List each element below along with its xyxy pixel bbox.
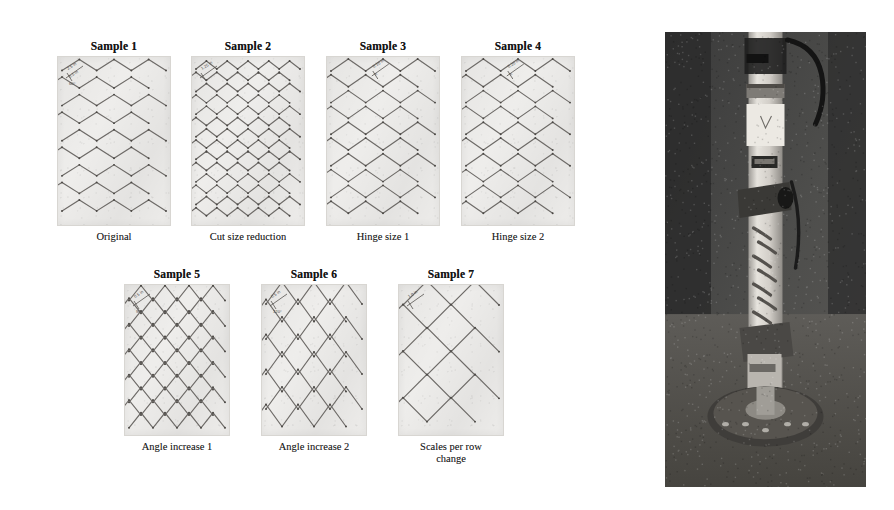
sample-cell-4: Sample 40.20 inhHinge size 2: [448, 40, 588, 243]
sample-title: Sample 4: [448, 40, 588, 52]
cut-pattern-graphic: 1.0 in: [399, 285, 503, 435]
flange-bolt-hole: [802, 422, 809, 426]
frame-column-right: [828, 32, 866, 314]
sample-title: Sample 2: [178, 40, 318, 52]
sample-caption: Original: [44, 231, 184, 243]
sample-cell-7: Sample 71.0 inScales per row change: [385, 268, 517, 465]
sample-panel-wrapper: 1.25 in: [178, 56, 318, 226]
sample-caption: Scales per row change: [385, 441, 517, 465]
sample-panel-wrapper: 1.0 in: [385, 284, 517, 436]
sample-cell-3: Sample 30.10 inhHinge size 1: [313, 40, 453, 243]
sample-pattern-panel: 1.0 in: [398, 284, 504, 436]
sample-caption: Hinge size 2: [448, 231, 588, 243]
cut-pattern-graphic: 1.25 in: [192, 57, 304, 225]
mid-clamp-knob: [778, 187, 794, 209]
sample-panel-wrapper: 0.5 in90°: [111, 284, 243, 436]
sample-title: Sample 3: [313, 40, 453, 52]
sample-title: Sample 1: [44, 40, 184, 52]
apparatus-photo: [665, 32, 866, 487]
sample-title: Sample 5: [111, 268, 243, 280]
sample-title: Sample 6: [248, 268, 380, 280]
sample-pattern-panel: 0.10 inh: [326, 56, 440, 226]
sample-pattern-panel: 0.20 inh: [461, 56, 575, 226]
sample-pattern-panel: 1.25 in: [191, 56, 305, 226]
sample-caption: Angle increase 1: [111, 441, 243, 453]
sample-cell-1: Sample 12.5 in0.5 in60°Original: [44, 40, 184, 243]
svg-text:0.5 in: 0.5 in: [270, 289, 282, 299]
upper-grip-slot: [747, 54, 769, 63]
sensor-block: [747, 104, 785, 146]
sample-cell-5: Sample 50.5 in90°Angle increase 1: [111, 268, 243, 453]
sample-caption: Cut size reduction: [178, 231, 318, 243]
lower-adapter-band: [750, 364, 776, 372]
flange-bolt-hole: [722, 422, 729, 426]
cut-pattern-graphic: 0.5 in120°: [262, 285, 366, 435]
sample-pattern-panel: 2.5 in0.5 in60°: [57, 56, 171, 226]
sample-pattern-panel: 0.5 in120°: [261, 284, 367, 436]
coupling-collar-shadow: [747, 84, 785, 88]
sample-panel-wrapper: 2.5 in0.5 in60°: [44, 56, 184, 226]
svg-text:90°: 90°: [136, 309, 143, 314]
figure-root: Sample 12.5 in0.5 in60°OriginalSample 21…: [0, 0, 894, 510]
cut-pattern-graphic: 0.20 inh: [462, 57, 574, 225]
svg-text:0.5 in: 0.5 in: [133, 289, 145, 299]
flange-bolt-hole: [742, 422, 749, 426]
sample-panel-wrapper: 0.5 in120°: [248, 284, 380, 436]
flange-bolt-hole: [762, 428, 769, 432]
sample-caption: Hinge size 1: [313, 231, 453, 243]
cut-pattern-graphic: 0.10 inh: [327, 57, 439, 225]
flange-shaft: [757, 387, 775, 415]
flange-bolt-hole: [784, 422, 791, 426]
cut-pattern-graphic: 0.5 in90°: [125, 285, 229, 435]
svg-text:60°: 60°: [69, 81, 76, 86]
sample-title: Sample 7: [385, 268, 517, 280]
sample-cell-6: Sample 60.5 in120°Angle increase 2: [248, 268, 380, 453]
sample-caption: Angle increase 2: [248, 441, 380, 453]
sample-pattern-panel: 0.5 in90°: [124, 284, 230, 436]
svg-text:120°: 120°: [273, 309, 282, 314]
sample-cell-2: Sample 21.25 inCut size reduction: [178, 40, 318, 243]
sample-panel-wrapper: 0.20 inh: [448, 56, 588, 226]
sample-panel-wrapper: 0.10 inh: [313, 56, 453, 226]
cut-pattern-graphic: 2.5 in0.5 in60°: [58, 57, 170, 225]
label-plate-text: [755, 159, 775, 164]
